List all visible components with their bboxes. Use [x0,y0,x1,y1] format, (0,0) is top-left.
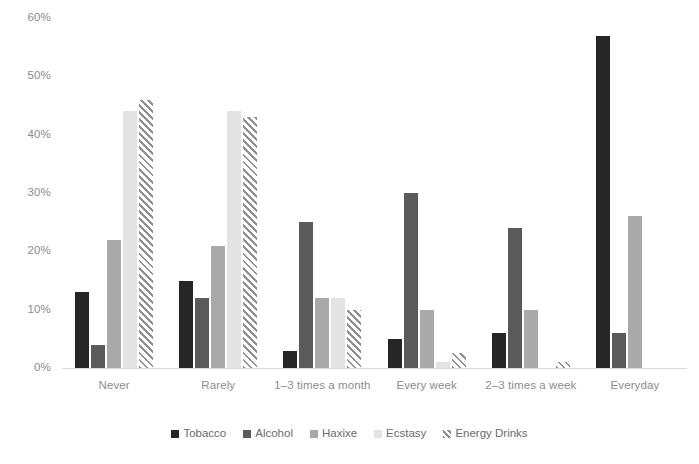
bar[interactable] [556,362,570,368]
bar[interactable] [227,111,241,368]
bar[interactable] [347,310,361,368]
y-axis-tick-label: 30% [1,187,51,199]
bar-group [583,18,687,368]
chart-legend: TobaccoAlcoholHaxixeEcstasyEnergy Drinks [0,428,699,440]
legend-swatch-icon [374,430,382,438]
x-axis-tick-label: Never [62,378,166,422]
y-axis: 60%50%40%30%20%10%0% [0,0,62,380]
x-axis-tick-label: Every week [375,378,479,422]
y-axis-tick-label: 40% [1,129,51,141]
legend-swatch-icon [243,430,251,438]
bar[interactable] [524,310,538,368]
bar[interactable] [436,362,450,368]
bar[interactable] [123,111,137,368]
bar[interactable] [283,351,297,369]
legend-swatch-icon [171,430,179,438]
bar[interactable] [91,345,105,368]
bar[interactable] [195,298,209,368]
y-axis-tick-label: 50% [1,70,51,82]
bar[interactable] [452,353,466,368]
legend-item[interactable]: Haxixe [310,428,357,440]
bar[interactable] [179,281,193,369]
x-axis-baseline [62,368,687,369]
y-axis-tick-label: 10% [1,304,51,316]
bar[interactable] [139,100,153,368]
bar[interactable] [596,36,610,369]
bar-group [62,18,166,368]
bar[interactable] [404,193,418,368]
legend-item[interactable]: Ecstasy [374,428,426,440]
legend-label: Haxixe [322,428,357,440]
bar[interactable] [331,298,345,368]
bar[interactable] [388,339,402,368]
x-axis-labels: NeverRarely1–3 times a monthEvery week2–… [62,378,687,422]
bar[interactable] [75,292,89,368]
legend-label: Ecstasy [386,428,426,440]
legend-swatch-icon [310,430,318,438]
bar[interactable] [211,246,225,369]
bar[interactable] [508,228,522,368]
bar[interactable] [420,310,434,368]
x-axis-tick-label: 2–3 times a week [479,378,583,422]
bar-group [166,18,270,368]
legend-item[interactable]: Tobacco [171,428,226,440]
legend-item[interactable]: Energy Drinks [443,428,527,440]
y-axis-tick-label: 60% [1,12,51,24]
legend-swatch-icon [443,430,451,438]
y-axis-tick-label: 20% [1,245,51,257]
bar[interactable] [299,222,313,368]
legend-label: Alcohol [255,428,293,440]
bar[interactable] [315,298,329,368]
x-axis-tick-label: 1–3 times a month [270,378,374,422]
x-axis-tick-label: Everyday [583,378,687,422]
bar[interactable] [628,216,642,368]
bar-chart: 60%50%40%30%20%10%0% NeverRarely1–3 time… [0,0,699,464]
bar[interactable] [612,333,626,368]
legend-label: Tobacco [183,428,226,440]
bar-group [270,18,374,368]
y-axis-tick-label: 0% [1,362,51,374]
legend-item[interactable]: Alcohol [243,428,293,440]
legend-label: Energy Drinks [455,428,527,440]
bar-group [479,18,583,368]
bar[interactable] [492,333,506,368]
bar[interactable] [107,240,121,368]
plot-area [62,18,687,368]
bar-group [375,18,479,368]
x-axis-tick-label: Rarely [166,378,270,422]
bar[interactable] [243,117,257,368]
